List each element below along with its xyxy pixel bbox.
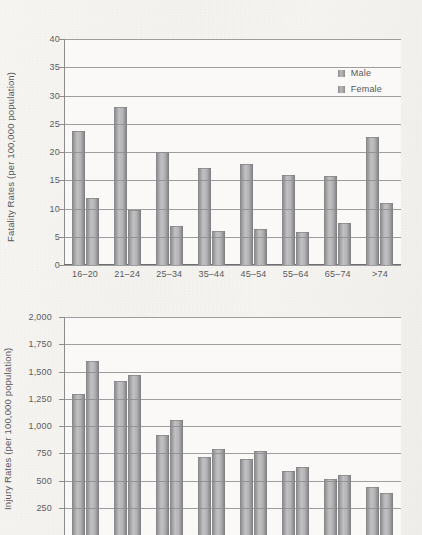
x-axis-label: 45–54 xyxy=(241,269,267,279)
fatality-gridline xyxy=(64,96,401,97)
bar-female xyxy=(170,420,183,535)
fatality-y-tick xyxy=(59,180,64,181)
bar-top-edge xyxy=(296,232,309,233)
fatality-y-tick xyxy=(59,67,64,68)
bar-top-edge xyxy=(254,229,267,230)
injury-gridline xyxy=(64,453,401,454)
fatality-y-tick xyxy=(59,209,64,210)
fatality-y-axis-labels: 0510152025303540 xyxy=(16,39,60,265)
injury-gridline xyxy=(64,399,401,400)
bar-male xyxy=(366,137,379,265)
fatality-y-tick xyxy=(59,152,64,153)
bar-top-edge xyxy=(380,203,393,204)
injury-rates-chart: Disability and Health Section Injury Rat… xyxy=(0,290,422,535)
bar-top-edge xyxy=(366,487,379,488)
bar-male xyxy=(114,107,127,265)
bar-male xyxy=(282,175,295,265)
injury-y-tick xyxy=(59,399,64,400)
bar-top-edge xyxy=(72,131,85,132)
bar-top-edge xyxy=(72,394,85,395)
bar-top-edge xyxy=(282,471,295,472)
bar-top-edge xyxy=(170,226,183,227)
fatality-rates-chart: Fatality Rates (per 100,000 population) … xyxy=(0,0,422,290)
bar-top-edge xyxy=(366,137,379,138)
x-axis-label: >74 xyxy=(372,269,388,279)
bar-top-edge xyxy=(86,361,99,362)
legend-label-female: Female xyxy=(351,84,382,94)
fatality-y-tick xyxy=(59,96,64,97)
x-axis-label: 21–24 xyxy=(114,269,140,279)
fatality-gridline xyxy=(64,237,401,238)
bar-female xyxy=(254,451,267,535)
injury-y-tick-label: 1,750 xyxy=(28,339,52,349)
bar-female xyxy=(380,493,393,535)
bar-male xyxy=(324,176,337,265)
injury-y-tick xyxy=(59,453,64,454)
legend-item-male: Male xyxy=(338,68,382,78)
x-axis-label: 16–20 xyxy=(72,269,98,279)
bar-male xyxy=(198,168,211,265)
bar-female xyxy=(338,475,351,535)
bar-top-edge xyxy=(128,210,141,211)
bar-male xyxy=(366,487,379,535)
bar-top-edge xyxy=(170,420,183,421)
injury-y-tick-label: 750 xyxy=(36,448,52,458)
bar-top-edge xyxy=(338,223,351,224)
fatality-gridline xyxy=(64,180,401,181)
injury-y-tick xyxy=(59,426,64,427)
injury-y-tick xyxy=(59,344,64,345)
fatality-gridline xyxy=(64,209,401,210)
legend-swatch-male-icon xyxy=(338,70,345,77)
x-axis-label: 65–74 xyxy=(325,269,351,279)
injury-gridline xyxy=(64,372,401,373)
bar-male xyxy=(240,164,253,265)
bar-female xyxy=(212,449,225,535)
injury-y-tick-label: 1,250 xyxy=(28,394,52,404)
fatality-gridline xyxy=(64,265,401,266)
bar-female xyxy=(170,226,183,265)
bar-top-edge xyxy=(212,449,225,450)
bar-female xyxy=(254,229,267,265)
legend-item-female: Female xyxy=(338,84,382,94)
fatality-gridline xyxy=(64,124,401,125)
x-axis-label: 35–44 xyxy=(198,269,224,279)
injury-y-tick-label: 250 xyxy=(36,503,52,513)
bar-top-edge xyxy=(198,168,211,169)
bar-top-edge xyxy=(86,198,99,199)
injury-y-tick-label: 1,000 xyxy=(28,421,52,431)
bar-female xyxy=(296,467,309,535)
bar-male xyxy=(72,394,85,535)
bar-top-edge xyxy=(380,493,393,494)
injury-gridline xyxy=(64,481,401,482)
fatality-y-tick xyxy=(59,39,64,40)
injury-gridline xyxy=(64,426,401,427)
bar-top-edge xyxy=(324,176,337,177)
fatality-y-tick xyxy=(59,265,64,266)
bar-top-edge xyxy=(338,475,351,476)
bar-male xyxy=(156,435,169,535)
bar-male xyxy=(240,459,253,535)
bar-female xyxy=(86,361,99,535)
fatality-y-tick xyxy=(59,237,64,238)
fatality-y-tick xyxy=(59,124,64,125)
bar-top-edge xyxy=(296,467,309,468)
bar-top-edge xyxy=(212,231,225,232)
bar-male xyxy=(114,381,127,535)
injury-y-axis-labels: 2505007501,0001,2501,5001,7502,000 xyxy=(8,317,52,535)
bar-male xyxy=(198,457,211,535)
injury-y-tick-label: 1,500 xyxy=(28,367,52,377)
bar-top-edge xyxy=(240,459,253,460)
injury-plot-area xyxy=(64,317,401,535)
bar-top-edge xyxy=(254,451,267,452)
bar-female xyxy=(338,223,351,265)
injury-y-tick-label: 500 xyxy=(36,476,52,486)
injury-gridline xyxy=(64,344,401,345)
bar-top-edge xyxy=(114,107,127,108)
bar-top-edge xyxy=(114,381,127,382)
bar-female xyxy=(380,203,393,265)
bar-top-edge xyxy=(156,435,169,436)
bar-top-edge xyxy=(128,375,141,376)
x-axis-label: 55–64 xyxy=(283,269,309,279)
fatality-x-axis-labels: 16–2021–2425–3435–4445–5455–6465–74>74 xyxy=(64,269,401,285)
injury-y-tick xyxy=(59,372,64,373)
